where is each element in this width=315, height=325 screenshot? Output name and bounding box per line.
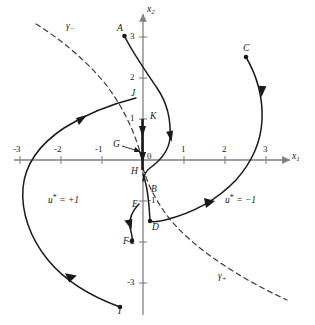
x-tick-label--2: -2: [54, 145, 62, 154]
point-label-E: E: [132, 200, 138, 210]
region-label-right: u* = −1: [225, 194, 256, 206]
point-label-K: K: [150, 112, 156, 122]
point-label-C: C: [243, 44, 249, 54]
point-label-A: A: [117, 24, 123, 34]
gamma-minus-curve: [36, 24, 140, 152]
gamma-plus-label: γ+: [218, 272, 226, 283]
y-tick-label--1: -1: [148, 196, 156, 205]
y-tick-label-2: 2: [130, 73, 135, 82]
singular-arc-segment: [139, 119, 146, 170]
axis-label-x2: x2: [147, 5, 155, 16]
plot-canvas: [0, 0, 315, 325]
axis-label-x1: x1: [292, 152, 300, 163]
region-label-left: u* = +1: [48, 194, 79, 206]
point-label-I: I: [118, 307, 121, 317]
point-label-D: D: [152, 223, 159, 233]
y-tick-label-1: 1: [130, 114, 135, 123]
y-tick-label-3: 3: [130, 32, 135, 41]
point-label-H: H: [131, 167, 138, 177]
origin-label: 0: [147, 152, 152, 161]
y-tick-label--3: -3: [127, 278, 135, 287]
point-label-J: J: [131, 89, 135, 99]
trajectory-j-i: [23, 98, 136, 309]
point-label-F: F: [123, 237, 129, 247]
x-tick-label-3: 3: [263, 145, 268, 154]
point-label-G: G: [113, 140, 120, 150]
point-label-B: B: [151, 185, 157, 195]
phase-plane-figure: x1 x2 -3 -2 -1 1 2 3 3 2 1 -1 -2 -3 0 A …: [0, 0, 315, 325]
gamma-plus-curve: [143, 168, 287, 300]
x-tick-label--3: -3: [13, 145, 21, 154]
x-tick-label-2: 2: [222, 145, 227, 154]
x-tick-label-1: 1: [181, 145, 186, 154]
gamma-minus-label: γ−: [66, 22, 74, 33]
x-tick-label--1: -1: [95, 145, 103, 154]
